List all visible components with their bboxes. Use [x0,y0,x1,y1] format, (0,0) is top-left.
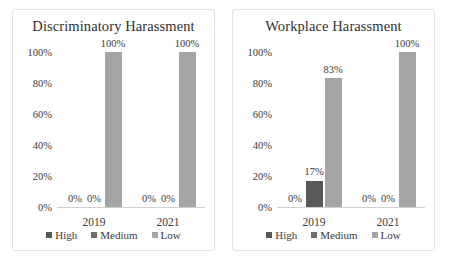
bar-value-label: 17% [304,167,323,178]
bar-value-label: 0% [68,194,82,205]
chart-title: Workplace Harassment [233,18,434,35]
legend-item-high[interactable]: High [46,229,77,241]
bar-groups: 0%0%100%20190%0%100%2021 [57,52,205,207]
y-axis-tick-label: 0% [258,202,272,213]
plot-area: 0%20%40%60%80%100%0%17%83%20190%0%100%20… [277,52,425,207]
legend-swatch-icon [152,232,158,238]
bar-slot-low: 100% [179,52,196,207]
bar-value-label: 100% [175,39,200,50]
bars: 0%0%100% [351,52,425,207]
legend-swatch-icon [266,232,272,238]
bar-slot-low: 100% [399,52,416,207]
x-axis-category-label: 2019 [57,216,131,228]
bar-slot-medium: 0% [160,52,177,207]
y-axis-tick-label: 20% [33,171,52,182]
bar-value-label: 100% [395,39,420,50]
legend-item-high[interactable]: High [266,229,297,241]
bar-slot-high: 0% [287,52,304,207]
bars: 0%17%83% [277,52,351,207]
bar-value-label: 100% [101,39,126,50]
bar-slot-high: 0% [361,52,378,207]
chart-screenshot: Discriminatory Harassment 0%20%40%60%80%… [0,0,450,260]
bar-value-label: 0% [142,194,156,205]
bar-slot-low: 83% [325,52,342,207]
y-axis-tick-label: 80% [33,78,52,89]
bar-slot-high: 0% [141,52,158,207]
bar-value-label: 83% [323,65,342,76]
legend-label: Medium [100,229,137,241]
bar-low[interactable] [325,78,342,207]
bar-low[interactable] [105,52,122,207]
y-axis-tick-label: 100% [28,47,53,58]
chart-panel-discriminatory-harassment: Discriminatory Harassment 0%20%40%60%80%… [12,9,215,251]
legend-item-low[interactable]: Low [372,229,401,241]
bar-value-label: 0% [381,194,395,205]
legend-item-medium[interactable]: Medium [91,229,137,241]
legend-label: Medium [320,229,357,241]
legend-swatch-icon [46,232,52,238]
legend-label: Low [161,229,181,241]
bar-value-label: 0% [87,194,101,205]
y-axis-tick-label: 100% [248,47,273,58]
bar-medium[interactable] [306,181,323,207]
bar-group: 0%0%100%2021 [351,52,425,207]
chart-panel-workplace-harassment: Workplace Harassment 0%20%40%60%80%100%0… [232,9,435,251]
x-axis-category-label: 2019 [277,216,351,228]
bar-value-label: 0% [288,194,302,205]
y-axis-tick-label: 0% [38,202,52,213]
legend-item-low[interactable]: Low [152,229,181,241]
bar-group: 0%17%83%2019 [277,52,351,207]
y-axis-tick-label: 60% [33,109,52,120]
y-axis-tick-label: 80% [253,78,272,89]
plot-area: 0%20%40%60%80%100%0%0%100%20190%0%100%20… [57,52,205,207]
chart-legend: HighMediumLow [233,229,434,241]
x-axis-line [57,207,205,208]
legend-swatch-icon [372,232,378,238]
bars: 0%0%100% [131,52,205,207]
y-axis-tick-label: 20% [253,171,272,182]
legend-item-medium[interactable]: Medium [311,229,357,241]
bar-value-label: 0% [362,194,376,205]
x-axis-category-label: 2021 [131,216,205,228]
chart-title: Discriminatory Harassment [13,18,214,35]
chart-legend: HighMediumLow [13,229,214,241]
legend-label: High [55,229,77,241]
y-axis-tick-label: 40% [253,140,272,151]
bar-slot-medium: 0% [380,52,397,207]
y-axis-tick-label: 40% [33,140,52,151]
bar-group: 0%0%100%2019 [57,52,131,207]
bar-low[interactable] [179,52,196,207]
bars: 0%0%100% [57,52,131,207]
legend-label: High [275,229,297,241]
x-axis-category-label: 2021 [351,216,425,228]
bar-slot-low: 100% [105,52,122,207]
legend-swatch-icon [91,232,97,238]
bar-low[interactable] [399,52,416,207]
bar-slot-high: 0% [67,52,84,207]
bar-group: 0%0%100%2021 [131,52,205,207]
legend-swatch-icon [311,232,317,238]
bar-value-label: 0% [161,194,175,205]
bar-slot-medium: 0% [86,52,103,207]
y-axis-tick-label: 60% [253,109,272,120]
bar-slot-medium: 17% [306,52,323,207]
legend-label: Low [381,229,401,241]
bar-groups: 0%17%83%20190%0%100%2021 [277,52,425,207]
x-axis-line [277,207,425,208]
